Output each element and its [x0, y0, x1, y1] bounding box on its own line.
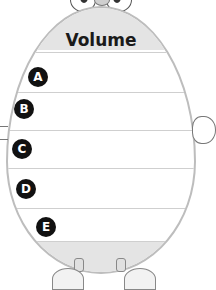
label-badge: A: [28, 67, 48, 87]
label-badge: D: [16, 179, 36, 199]
answer-row-d[interactable]: D: [8, 168, 194, 207]
answer-row-c[interactable]: C: [8, 130, 194, 169]
answer-row-a[interactable]: A: [8, 52, 194, 91]
right-leg-icon: [116, 258, 126, 272]
footer-band: [8, 241, 194, 272]
label-badge: C: [12, 139, 32, 159]
left-hand-icon: [0, 126, 8, 140]
egg-body: Volume A B C D E: [6, 6, 196, 274]
right-foot-icon: [124, 268, 156, 290]
page-title: Volume: [8, 30, 194, 50]
right-hand-icon: [192, 116, 216, 144]
label-badge: B: [14, 99, 34, 119]
answer-row-b[interactable]: B: [8, 92, 194, 131]
label-badge: E: [36, 217, 56, 237]
left-foot-icon: [52, 268, 84, 290]
